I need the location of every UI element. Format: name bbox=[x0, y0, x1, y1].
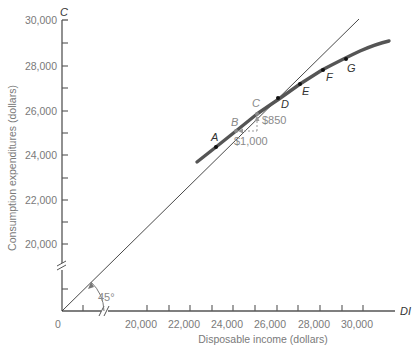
arc-arrow-icon bbox=[88, 282, 94, 289]
angle-label: 45° bbox=[98, 291, 115, 303]
point-b bbox=[234, 129, 238, 133]
x-tick-label: 30,000 bbox=[341, 318, 373, 330]
y-axis-symbol: C bbox=[60, 6, 68, 18]
x-tick-label: 26,000 bbox=[254, 318, 286, 330]
point-f bbox=[321, 68, 325, 72]
y-tick-label: 24,000 bbox=[25, 149, 57, 161]
forty-five-degree-line bbox=[62, 19, 359, 311]
x-axis-symbol: DI bbox=[400, 305, 411, 317]
y-ticks bbox=[62, 43, 68, 289]
point-label-a: A bbox=[210, 131, 218, 143]
y-tick-label: 26,000 bbox=[25, 105, 57, 117]
x-tick-label: 28,000 bbox=[298, 318, 330, 330]
x-tick-label: 22,000 bbox=[168, 318, 200, 330]
x-tick-label: 24,000 bbox=[211, 318, 243, 330]
point-label-e: E bbox=[302, 85, 310, 97]
y-tick-label: 20,000 bbox=[25, 238, 57, 250]
point-label-c: C bbox=[252, 97, 260, 109]
y-tick-label: 30,000 bbox=[25, 14, 57, 26]
x-tick-label: 20,000 bbox=[125, 318, 157, 330]
point-d bbox=[276, 96, 280, 100]
point-g bbox=[344, 57, 348, 61]
delta-c-label: $850 bbox=[262, 114, 286, 126]
y-tick-label: 28,000 bbox=[25, 60, 57, 72]
point-label-d: D bbox=[281, 98, 289, 110]
point-label-f: F bbox=[326, 71, 334, 83]
point-label-b: B bbox=[231, 116, 238, 128]
x-axis-title: Disposable income (dollars) bbox=[198, 333, 328, 345]
consumption-chart: 30,000 28,000 26,000 24,000 22,000 20,00… bbox=[0, 0, 419, 348]
delta-di-label: $1,000 bbox=[234, 135, 268, 147]
y-axis-title: Consumption expenditures (dollars) bbox=[6, 85, 18, 251]
x-ticks bbox=[83, 305, 363, 311]
point-a bbox=[214, 145, 218, 149]
point-c bbox=[255, 112, 259, 116]
consumption-curve bbox=[197, 41, 389, 162]
origin-label: 0 bbox=[55, 318, 61, 330]
y-tick-label: 22,000 bbox=[25, 194, 57, 206]
point-label-g: G bbox=[347, 62, 356, 74]
